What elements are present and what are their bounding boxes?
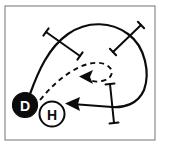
figure-svg: DH	[0, 0, 170, 151]
tick-mark-lower-right-cap-start	[106, 84, 115, 85]
node-h[interactable]: H	[40, 102, 65, 127]
node-d[interactable]: D	[13, 93, 38, 118]
node-d-label: D	[20, 98, 30, 114]
panel-border	[5, 6, 155, 140]
figure-root: DH	[0, 0, 170, 151]
node-h-label: H	[47, 107, 57, 123]
tick-mark-lower-right-cap-end	[110, 123, 119, 124]
